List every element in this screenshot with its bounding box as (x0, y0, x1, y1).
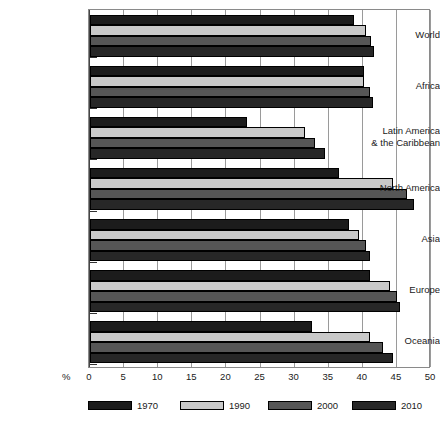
bar-2010 (90, 353, 393, 364)
legend-label-1990: 1990 (229, 400, 250, 411)
bar-2010 (90, 46, 374, 57)
bar-2010 (90, 199, 414, 210)
x-axis-unit-label: % (62, 371, 70, 382)
x-tick-label-45: 45 (391, 371, 402, 382)
bar-1990 (90, 178, 393, 189)
category-label-line: Oceania (356, 335, 440, 347)
bar-row (90, 148, 429, 159)
bar-row (90, 66, 429, 77)
bar-2000 (90, 36, 371, 47)
bar-1990 (90, 127, 305, 138)
category-label-line: Europe (356, 284, 440, 296)
category-label-line: World (356, 29, 440, 41)
category-label: North America (356, 182, 440, 194)
x-tick-label-0: 0 (86, 371, 91, 382)
category-label: Oceania (356, 335, 440, 347)
bar-2000 (90, 138, 315, 149)
bar-row (90, 302, 429, 313)
bar-1990 (90, 25, 366, 36)
category-label-line: Latin America (356, 125, 440, 137)
legend-label-2010: 2010 (401, 400, 422, 411)
bar-2010 (90, 97, 373, 108)
x-tick-label-50: 50 (425, 371, 436, 382)
legend-item-1990[interactable]: 1990 (180, 400, 250, 411)
legend-label-1970: 1970 (137, 400, 158, 411)
category-label: World (356, 29, 440, 41)
bar-row (90, 353, 429, 364)
x-tick-label-30: 30 (288, 371, 299, 382)
legend-item-1970[interactable]: 1970 (88, 400, 158, 411)
x-tick-label-35: 35 (322, 371, 333, 382)
bar-row (90, 46, 429, 57)
bar-2010 (90, 251, 370, 262)
bar-1990 (90, 230, 359, 241)
bar-row (90, 321, 429, 332)
bar-row (90, 15, 429, 26)
category-label-line: Africa (356, 80, 440, 92)
bar-2010 (90, 148, 325, 159)
legend-item-2000[interactable]: 2000 (268, 400, 338, 411)
legend-swatch-1970 (88, 401, 132, 410)
x-tick-label-25: 25 (254, 371, 265, 382)
bar-1990 (90, 281, 390, 292)
x-tick-label-15: 15 (186, 371, 197, 382)
bar-2010 (90, 302, 400, 313)
category-label: Latin America& the Caribbean (356, 125, 440, 149)
legend-swatch-2000 (268, 401, 312, 410)
category-label: Europe (356, 284, 440, 296)
category-label: Africa (356, 80, 440, 92)
legend-swatch-2010 (352, 401, 396, 410)
category-label: Asia (356, 233, 440, 245)
x-axis: % 05101520253035404550 (0, 371, 440, 387)
bar-1990 (90, 76, 364, 87)
bar-2000 (90, 342, 383, 353)
legend-item-2010[interactable]: 2010 (352, 400, 422, 411)
legend-swatch-1990 (180, 401, 224, 410)
bar-1990 (90, 332, 370, 343)
bar-1970 (90, 168, 339, 179)
bar-row (90, 219, 429, 230)
x-tick-label-40: 40 (357, 371, 368, 382)
bar-2000 (90, 87, 370, 98)
bar-2000 (90, 291, 397, 302)
category-label-line: North America (356, 182, 440, 194)
legend-label-2000: 2000 (317, 400, 338, 411)
bar-row (90, 251, 429, 262)
bar-1970 (90, 15, 354, 26)
bar-1970 (90, 321, 312, 332)
bar-1970 (90, 117, 247, 128)
chart-legend: 1970199020002010 (0, 400, 440, 418)
bar-1970 (90, 270, 370, 281)
chart-container: WorldAfricaLatin America& the CaribbeanN… (0, 0, 440, 427)
category-label-line: Asia (356, 233, 440, 245)
category-label-line: & the Caribbean (356, 137, 440, 149)
bar-1970 (90, 219, 349, 230)
bar-row (90, 270, 429, 281)
bar-1970 (90, 66, 364, 77)
x-tick-label-20: 20 (220, 371, 231, 382)
bar-row (90, 97, 429, 108)
bar-2000 (90, 240, 366, 251)
x-tick-label-5: 5 (120, 371, 125, 382)
bar-row (90, 168, 429, 179)
bar-row (90, 199, 429, 210)
x-tick-label-10: 10 (152, 371, 163, 382)
